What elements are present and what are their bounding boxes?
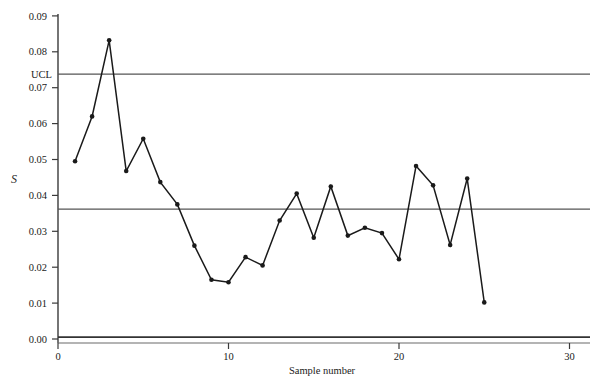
data-point xyxy=(277,218,282,223)
data-point xyxy=(192,243,197,248)
data-point xyxy=(363,225,368,230)
data-point xyxy=(243,255,248,260)
ucl-label: UCL xyxy=(31,69,52,80)
data-point xyxy=(482,300,487,305)
data-point xyxy=(260,263,265,268)
y-tick-label: 0.08 xyxy=(29,46,47,57)
data-point xyxy=(431,183,436,188)
y-axis-tick-labels: 0.000.010.020.030.040.050.060.070.080.09 xyxy=(29,11,48,345)
data-point xyxy=(294,191,299,196)
x-tick-label: 10 xyxy=(223,351,234,362)
y-axis-title: S xyxy=(11,172,17,186)
data-point xyxy=(175,202,180,207)
data-point xyxy=(465,176,470,181)
data-point xyxy=(329,184,334,189)
data-point xyxy=(158,180,163,185)
y-tick-label: 0.01 xyxy=(29,298,47,309)
data-point xyxy=(107,38,112,43)
x-tick-label: 20 xyxy=(394,351,405,362)
data-point xyxy=(311,235,316,240)
data-point xyxy=(414,164,419,169)
data-point xyxy=(380,231,385,236)
data-point xyxy=(73,159,78,164)
data-point xyxy=(397,257,402,262)
y-tick-label: 0.00 xyxy=(29,334,47,345)
data-point xyxy=(209,277,214,282)
data-point xyxy=(226,280,231,285)
data-point xyxy=(124,169,129,174)
y-tick-label: 0.02 xyxy=(29,262,47,273)
data-point xyxy=(141,136,146,141)
x-axis-tick-labels: 0102030 xyxy=(55,351,574,362)
x-axis-title: Sample number xyxy=(289,365,356,376)
y-tick-label: 0.07 xyxy=(29,82,47,93)
y-tick-label: 0.09 xyxy=(29,11,47,22)
data-point xyxy=(90,114,95,119)
x-tick-label: 0 xyxy=(55,351,60,362)
x-axis-ticks xyxy=(58,343,570,349)
y-axis-ticks xyxy=(52,16,58,339)
y-tick-label: 0.04 xyxy=(29,190,48,201)
y-tick-label: 0.05 xyxy=(29,154,47,165)
data-point xyxy=(346,233,351,238)
x-tick-label: 30 xyxy=(564,351,575,362)
chart-page: 0.000.010.020.030.040.050.060.070.080.09… xyxy=(0,0,599,388)
y-tick-label: 0.03 xyxy=(29,226,47,237)
plot-area-background xyxy=(58,14,572,340)
data-point xyxy=(448,243,453,248)
y-tick-label: 0.06 xyxy=(29,118,47,129)
s-control-chart: 0.000.010.020.030.040.050.060.070.080.09… xyxy=(0,0,599,388)
